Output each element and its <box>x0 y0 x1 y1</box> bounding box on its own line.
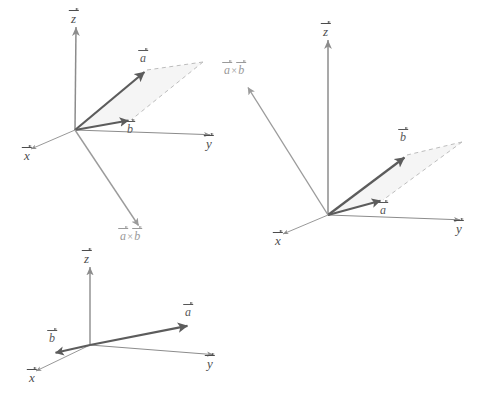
cross-product-figure: z y x a b a×b z y x a b a×b z y x a <box>0 0 491 405</box>
panel-1-vector-a-cross-b <box>75 130 139 226</box>
times-symbol: × <box>126 231 134 242</box>
panel-1-axis-label-y: y <box>206 137 212 150</box>
panel-1-axis-label-z: z <box>71 12 76 25</box>
panel-1-group <box>31 27 210 226</box>
panel-2-group <box>248 40 462 234</box>
panel-2-axis-label-x: x <box>275 234 281 247</box>
panel-2-vector-label-b: b <box>400 131 406 143</box>
panel-1-axis-x <box>31 130 75 149</box>
panel-3-axis-label-y: y <box>207 357 213 370</box>
panel-2-axis-x <box>283 215 328 234</box>
panel-3-axis-label-x: x <box>29 371 35 384</box>
panel-3-axis-label-z: z <box>84 252 89 265</box>
panel-2-axis-y <box>328 215 460 220</box>
panel-1-axis-z <box>75 27 76 130</box>
panel-2-vector-label-a: a <box>380 204 386 216</box>
panel-1-axis-y <box>75 130 210 135</box>
panel-2-axis-label-y: y <box>456 222 462 235</box>
panel-1-parallelogram-fill <box>75 62 203 130</box>
panel-1-vector-label-a-cross-b: a×b <box>120 230 140 242</box>
panel-3-vector-a <box>90 326 188 345</box>
times-symbol: × <box>230 65 238 76</box>
panel-2-vector-label-a-cross-b: a×b <box>224 64 244 76</box>
panel-3-vector-label-a: a <box>185 306 191 318</box>
panel-3-axis-x <box>36 345 90 371</box>
panel-1-vector-label-a: a <box>140 52 146 64</box>
panel-3-vector-b <box>56 345 91 353</box>
panel-1-vector-label-b: b <box>127 123 133 135</box>
panel-1-axis-label-x: x <box>24 149 30 162</box>
diagram-canvas <box>0 0 491 405</box>
panel-3-axis-y <box>90 345 213 355</box>
panel-3-vector-label-b: b <box>49 332 55 344</box>
panel-2-parallelogram-fill <box>328 142 462 215</box>
panel-2-axis-label-z: z <box>323 25 328 38</box>
panel-3-group <box>36 267 213 371</box>
panel-2-vector-a-cross-b <box>248 88 328 216</box>
